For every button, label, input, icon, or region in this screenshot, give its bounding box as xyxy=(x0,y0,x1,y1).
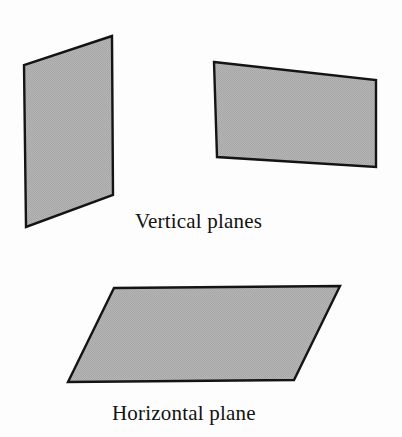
right-vertical-plane xyxy=(214,62,376,167)
left-vertical-plane xyxy=(24,36,113,227)
figure-container: Vertical planes Horizontal plane xyxy=(0,0,402,437)
vertical-planes-caption: Vertical planes xyxy=(135,211,262,232)
horizontal-plane xyxy=(68,286,340,382)
horizontal-plane-caption: Horizontal plane xyxy=(112,403,256,424)
